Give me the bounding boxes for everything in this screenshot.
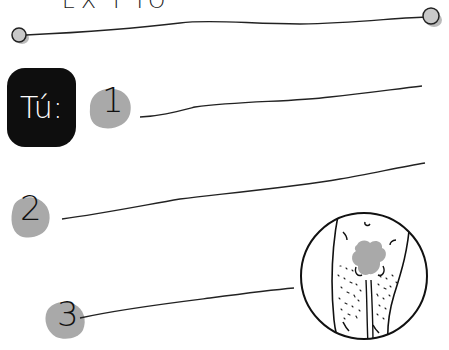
right-endpoint-icon <box>423 8 439 24</box>
item-number-3: 3 <box>57 294 79 334</box>
answer-item-2 <box>11 163 425 238</box>
answer-item-3 <box>45 288 294 339</box>
answer-line-2 <box>62 163 425 219</box>
answer-item-1 <box>90 86 422 128</box>
left-endpoint-icon <box>12 28 26 42</box>
answer-line-1 <box>140 86 422 117</box>
top-divider-line <box>12 8 442 44</box>
tu-label-badge: Tú: <box>7 68 76 147</box>
item-number-2: 2 <box>20 188 42 228</box>
item-number-1: 1 <box>102 80 124 120</box>
badge-label: Tú: <box>20 90 63 125</box>
circular-detail-illustration <box>301 210 427 345</box>
answer-line-3 <box>80 288 294 318</box>
